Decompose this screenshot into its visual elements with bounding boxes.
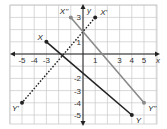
y-tick-label: -2 — [74, 74, 82, 83]
x-axis-arrow-left-icon — [10, 52, 15, 57]
y-tick-label: 3 — [77, 13, 82, 22]
point-X — [44, 40, 48, 44]
y-tick-label: 1 — [77, 38, 82, 47]
point-Xp — [93, 15, 97, 19]
x-tick-label: 1 — [93, 56, 98, 65]
y-axis-arrow-down-icon — [81, 121, 86, 126]
point-Xpp — [69, 15, 73, 19]
point-label: Y'' — [148, 104, 157, 113]
axes — [10, 4, 160, 126]
point-Y — [130, 113, 134, 117]
graph-svg: -5-4-31345x31-2-3-4-5y XYX'Y'X''Y'' — [0, 0, 167, 129]
y-tick-label: -4 — [74, 99, 82, 108]
x-tick-label: -3 — [43, 56, 51, 65]
point-label: Y' — [12, 104, 19, 113]
point-label: X'' — [59, 7, 69, 16]
point-label: X — [36, 33, 43, 42]
point-label: Y — [136, 116, 142, 125]
point-label: X' — [99, 8, 107, 17]
coordinate-plane: -5-4-31345x31-2-3-4-5y XYX'Y'X''Y'' — [0, 0, 167, 129]
y-axis-label: y — [86, 6, 92, 15]
x-tick-label: -5 — [18, 56, 26, 65]
x-axis-label: x — [155, 56, 161, 65]
y-tick-label: -5 — [74, 111, 82, 120]
x-tick-label: -4 — [31, 56, 39, 65]
x-tick-label: 5 — [142, 56, 147, 65]
x-tick-label: 3 — [117, 56, 122, 65]
point-Ypp — [142, 101, 146, 105]
x-tick-label: 4 — [130, 56, 135, 65]
y-tick-label: -3 — [74, 87, 82, 96]
point-Yp — [20, 101, 24, 105]
